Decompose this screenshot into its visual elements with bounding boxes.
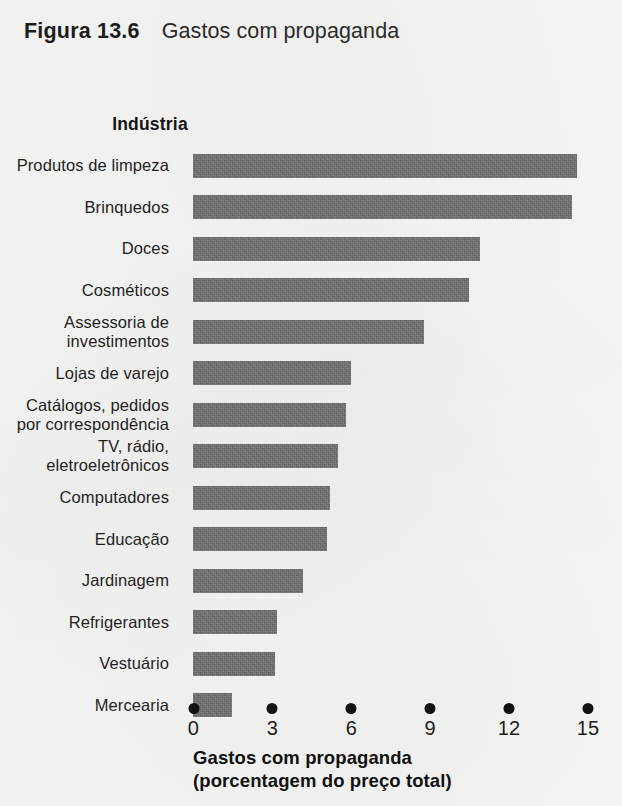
bar xyxy=(193,361,351,385)
bar-category-label-line: Vestuário xyxy=(99,654,169,673)
x-axis-title: Gastos com propaganda (porcentagem do pr… xyxy=(193,746,613,792)
x-axis-tick-label: 0 xyxy=(188,717,199,740)
bar-chart: Indústria Produtos de limpezaBrinquedosD… xyxy=(0,0,622,806)
bar xyxy=(193,444,338,468)
x-axis-title-line1: Gastos com propaganda xyxy=(193,746,613,769)
x-axis-tick-dot xyxy=(504,703,515,714)
bar xyxy=(193,154,577,178)
bar-row: Doces xyxy=(0,228,622,270)
bar-category-label: Jardinagem xyxy=(0,560,181,602)
x-axis-tick-label: 12 xyxy=(498,717,521,740)
bar xyxy=(193,237,480,261)
bar-category-label-line: Cosméticos xyxy=(82,281,169,300)
x-axis-tick-dot xyxy=(346,703,357,714)
x-axis-tick-label: 6 xyxy=(346,717,357,740)
bar xyxy=(193,527,327,551)
bar-category-label-line: por correspondência xyxy=(17,415,169,434)
bar-category-label: Cosméticos xyxy=(0,270,181,312)
bar-row: Catálogos, pedidospor correspondência xyxy=(0,394,622,436)
bar-track xyxy=(193,602,613,644)
bar-track xyxy=(193,187,613,229)
bar-category-label-line: eletroeletrônicos xyxy=(46,456,169,475)
bar-category-label: Brinquedos xyxy=(0,187,181,229)
x-axis-tick-label: 15 xyxy=(577,717,600,740)
bar-track xyxy=(193,519,613,561)
bar-track xyxy=(193,477,613,519)
bar-row: Assessoria deinvestimentos xyxy=(0,311,622,353)
bar-category-label: Doces xyxy=(0,228,181,270)
bar-row: Mercearia xyxy=(0,685,622,727)
bar-track xyxy=(193,436,613,478)
bar-category-label: Produtos de limpeza xyxy=(0,145,181,187)
bar-row: Vestuário xyxy=(0,643,622,685)
bar-category-label-line: Lojas de varejo xyxy=(56,364,169,383)
x-axis-tick-dot xyxy=(425,703,436,714)
bar-category-label: TV, rádio,eletroeletrônicos xyxy=(0,436,181,478)
bar-track xyxy=(193,394,613,436)
bar-row: Refrigerantes xyxy=(0,602,622,644)
bar-category-label: Catálogos, pedidospor correspondência xyxy=(0,394,181,436)
bar-track xyxy=(193,353,613,395)
bar-category-label: Educação xyxy=(0,519,181,561)
bar-category-label-line: investimentos xyxy=(67,332,169,351)
bar-track xyxy=(193,685,613,727)
bar xyxy=(193,569,303,593)
bar-category-label-line: Brinquedos xyxy=(85,198,169,217)
x-axis-tick-dot xyxy=(188,703,199,714)
bar-track xyxy=(193,228,613,270)
bar xyxy=(193,278,469,302)
bar-row: Brinquedos xyxy=(0,187,622,229)
bar xyxy=(193,693,232,717)
bar-row: Lojas de varejo xyxy=(0,353,622,395)
x-axis-tick-dot xyxy=(583,703,594,714)
figure-container: Figura 13.6 Gastos com propaganda Indúst… xyxy=(0,0,622,806)
bar-category-label: Lojas de varejo xyxy=(0,353,181,395)
bar-category-label: Vestuário xyxy=(0,643,181,685)
bar-track xyxy=(193,643,613,685)
bar-category-label: Assessoria deinvestimentos xyxy=(0,311,181,353)
x-axis-tick-dot xyxy=(267,703,278,714)
bar-category-label-line: Catálogos, pedidos xyxy=(26,396,169,415)
bar-row: Educação xyxy=(0,519,622,561)
bar-track xyxy=(193,311,613,353)
bar xyxy=(193,403,346,427)
x-axis-title-line2: (porcentagem do preço total) xyxy=(193,769,613,792)
bar-category-label-line: Jardinagem xyxy=(82,571,169,590)
bar-category-label-line: TV, rádio, xyxy=(98,437,169,456)
bar-track xyxy=(193,145,613,187)
bar-row: Computadores xyxy=(0,477,622,519)
bar-track xyxy=(193,270,613,312)
bar-category-label-line: Produtos de limpeza xyxy=(17,156,169,175)
bar-category-label-line: Educação xyxy=(95,530,169,549)
bar-category-label: Mercearia xyxy=(0,685,181,727)
x-axis-tick-label: 3 xyxy=(267,717,278,740)
bar-track xyxy=(193,560,613,602)
bar-row: Produtos de limpeza xyxy=(0,145,622,187)
bar xyxy=(193,652,275,676)
bar xyxy=(193,320,424,344)
bar-row: TV, rádio,eletroeletrônicos xyxy=(0,436,622,478)
bar-category-label-line: Refrigerantes xyxy=(69,613,169,632)
bar xyxy=(193,195,572,219)
bar-category-label-line: Doces xyxy=(122,239,169,258)
bar-category-label-line: Mercearia xyxy=(95,696,169,715)
category-axis-header: Indústria xyxy=(62,114,238,135)
bar-category-label-line: Computadores xyxy=(60,488,169,507)
bar-category-label-line: Assessoria de xyxy=(64,313,169,332)
bar xyxy=(193,486,330,510)
bar-row: Cosméticos xyxy=(0,270,622,312)
bar xyxy=(193,610,277,634)
bar-row: Jardinagem xyxy=(0,560,622,602)
x-axis-tick-label: 9 xyxy=(425,717,436,740)
bar-category-label: Computadores xyxy=(0,477,181,519)
bar-category-label: Refrigerantes xyxy=(0,602,181,644)
